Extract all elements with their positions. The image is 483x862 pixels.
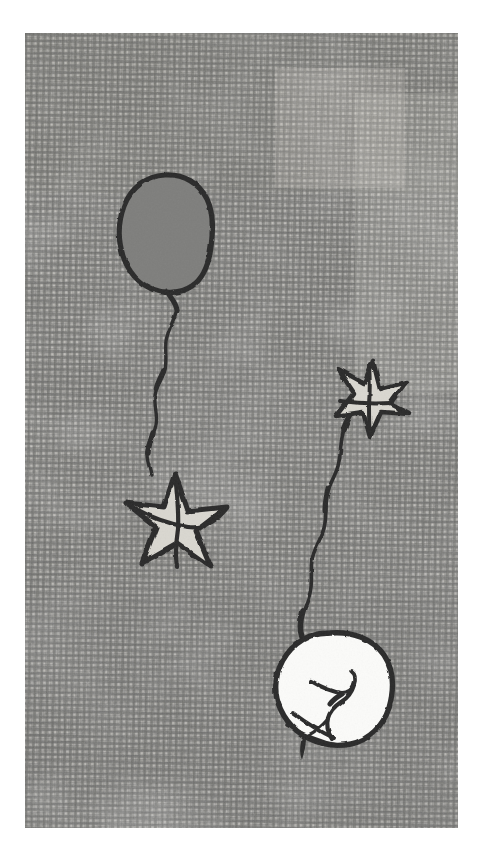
artwork-plate: [25, 33, 458, 828]
artwork-illustration: [25, 33, 458, 828]
artwork-canvas: Balloons and Stars ink drawing on woven …: [0, 0, 483, 862]
